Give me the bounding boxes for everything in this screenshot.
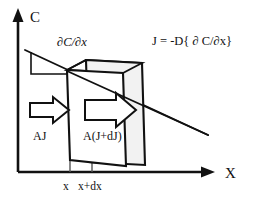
tick-label-x-plus-dx: x+dx xyxy=(78,180,102,192)
flux-out-label: A(J+dJ) xyxy=(83,129,122,143)
slab-connect-edge-top-left xyxy=(67,60,86,70)
flux-in-label: AJ xyxy=(33,129,47,143)
gradient-label: ∂C/∂x xyxy=(57,35,87,49)
x-axis-label: X xyxy=(225,165,236,181)
flux-formula-label: J = -D{ ∂ C/∂x} xyxy=(152,34,232,48)
arrow-right-icon xyxy=(201,167,215,178)
tick-label-x: x xyxy=(63,180,69,192)
fick-law-diagram: C X xyxy=(0,0,257,202)
arrow-up-icon xyxy=(13,8,24,22)
y-axis-label: C xyxy=(30,9,40,25)
diagram-canvas: C X xyxy=(0,0,257,202)
block-arrow-right-icon-in xyxy=(30,97,69,123)
